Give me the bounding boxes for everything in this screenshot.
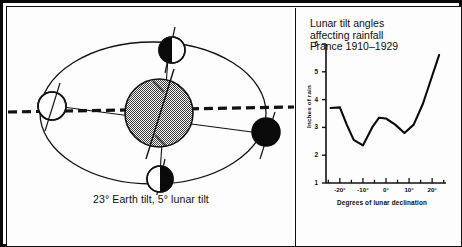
chart-y-tick-label: 1: [302, 179, 318, 186]
figure-frame: 23° Earth tilt, 5° lunar tilt Lunar tilt…: [0, 0, 462, 247]
chart-y-tick-label: 6: [302, 40, 318, 47]
chart-x-tick-label: 10°: [397, 186, 421, 193]
moon-first-quarter-body: [159, 27, 185, 73]
chart-plot-svg: [296, 7, 462, 207]
chart-x-axis-label: Degrees of lunar declination: [302, 199, 462, 206]
moon-full-body: [252, 112, 280, 159]
figure-inner-border: 23° Earth tilt, 5° lunar tilt Lunar tilt…: [6, 6, 462, 247]
earth-body: [125, 79, 193, 147]
chart-y-tick-label: 2: [302, 151, 318, 158]
chart-data-line: [331, 55, 439, 145]
chart-x-tick-label: 20°: [420, 186, 444, 193]
chart-x-tick-label: 0°: [374, 186, 398, 193]
moon-last-quarter-body: [147, 159, 173, 195]
chart-x-tick-label: -20°: [328, 186, 352, 193]
orbital-diagram-svg: [7, 7, 295, 195]
orbit-caption: 23° Earth tilt, 5° lunar tilt: [7, 193, 295, 205]
orbital-diagram-panel: 23° Earth tilt, 5° lunar tilt: [7, 7, 295, 246]
rainfall-chart-panel: Lunar tilt angles affecting rainfall Fra…: [296, 7, 462, 246]
chart-x-tick-label: -10°: [351, 186, 375, 193]
chart-y-axis-label: Inches of rain: [305, 74, 312, 140]
